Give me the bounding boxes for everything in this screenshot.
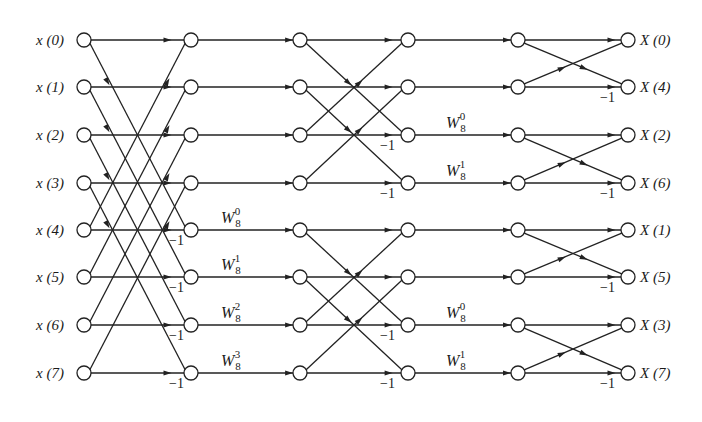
arrowhead-icon [557, 254, 566, 262]
node-c4-r2 [511, 128, 525, 142]
output-label-2: X (2) [639, 127, 670, 144]
arrowhead-icon [503, 84, 511, 89]
arrowhead-icon [385, 84, 393, 89]
node-c3-r7 [401, 366, 415, 380]
fft-flow-graph: x (0)x (1)x (2)x (3)x (4)x (5)x (6)x (7)… [0, 0, 702, 422]
node-c2-r2 [293, 128, 307, 142]
node-c4-r0 [511, 33, 525, 47]
node-c0-r4 [77, 223, 91, 237]
arrowhead-icon [285, 180, 293, 185]
input-label-4: x (4) [35, 222, 64, 239]
arrowhead-icon [285, 132, 293, 137]
arrowhead-icon [503, 132, 511, 137]
arrowhead-icon [608, 227, 616, 232]
arrowhead-icon [608, 370, 616, 375]
arrowhead-icon [557, 350, 566, 358]
neg-label-stage2-row3: −1 [380, 186, 395, 201]
neg-label-stage3-row3: −1 [600, 186, 615, 201]
node-c4-r1 [511, 80, 525, 94]
twiddle-stage2-row6: W80 [446, 300, 466, 324]
neg-label-stage1-row6: −1 [169, 328, 184, 343]
twiddle-stage1-row7: W83 [221, 348, 241, 372]
arrowhead-icon [557, 64, 566, 72]
node-c4-r4 [511, 223, 525, 237]
node-c1-r3 [184, 176, 198, 190]
output-label-5: X (5) [639, 269, 670, 286]
input-label-0: x (0) [35, 32, 64, 49]
arrowhead-icon [608, 180, 616, 185]
node-c1-r1 [184, 80, 198, 94]
arrowhead-icon [285, 84, 293, 89]
arrowhead-icon [503, 322, 511, 327]
arrowhead-icon [503, 227, 511, 232]
arrowhead-icon [608, 37, 616, 42]
arrowhead-icon [503, 37, 511, 42]
node-c5-r2 [621, 128, 635, 142]
arrowhead-icon [579, 350, 588, 358]
edges-layer [90, 40, 623, 373]
node-c5-r6 [621, 318, 635, 332]
arrowhead-icon [385, 37, 393, 42]
node-c3-r4 [401, 223, 415, 237]
neg-label-stage3-row5: −1 [600, 280, 615, 295]
node-c3-r3 [401, 176, 415, 190]
node-c4-r3 [511, 176, 525, 190]
node-c0-r2 [77, 128, 91, 142]
node-c2-r4 [293, 223, 307, 237]
node-c4-r5 [511, 270, 525, 284]
arrowhead-icon [579, 64, 588, 72]
arrowhead-icon [285, 37, 293, 42]
arrowhead-icon [608, 132, 616, 137]
arrowhead-icon [557, 160, 566, 168]
node-c0-r0 [77, 33, 91, 47]
node-c1-r6 [184, 318, 198, 332]
node-c1-r2 [184, 128, 198, 142]
twiddle-stage2-row3: W81 [446, 158, 466, 182]
node-c3-r2 [401, 128, 415, 142]
node-c3-r6 [401, 318, 415, 332]
arrowhead-icon [385, 132, 393, 137]
arrowhead-icon [285, 274, 293, 279]
node-c1-r0 [184, 33, 198, 47]
input-label-6: x (6) [35, 317, 64, 334]
node-c5-r3 [621, 176, 635, 190]
arrowhead-icon [164, 274, 172, 279]
node-c0-r5 [77, 270, 91, 284]
output-label-1: X (4) [639, 79, 670, 96]
input-label-3: x (3) [35, 175, 64, 192]
node-c2-r6 [293, 318, 307, 332]
arrowhead-icon [385, 370, 393, 375]
arrowhead-icon [385, 274, 393, 279]
twiddle-stage1-row5: W81 [221, 252, 241, 276]
arrowhead-icon [285, 370, 293, 375]
twiddle-stage1-row6: W82 [221, 300, 241, 324]
arrowhead-icon [579, 160, 588, 168]
node-c1-r4 [184, 223, 198, 237]
node-c0-r7 [77, 366, 91, 380]
twiddle-stage2-row2: W80 [446, 110, 466, 134]
neg-label-stage3-row1: −1 [600, 90, 615, 105]
arrowhead-icon [503, 274, 511, 279]
node-c5-r1 [621, 80, 635, 94]
arrowhead-icon [608, 322, 616, 327]
arrowhead-icon [164, 322, 172, 327]
node-c5-r5 [621, 270, 635, 284]
node-c5-r4 [621, 223, 635, 237]
input-label-5: x (5) [35, 269, 64, 286]
input-label-2: x (2) [35, 127, 64, 144]
neg-label-stage1-row7: −1 [169, 376, 184, 391]
node-c2-r5 [293, 270, 307, 284]
node-c2-r3 [293, 176, 307, 190]
neg-label-stage1-row5: −1 [169, 280, 184, 295]
node-c0-r1 [77, 80, 91, 94]
butterfly-diagram: x (0)x (1)x (2)x (3)x (4)x (5)x (6)x (7)… [0, 0, 702, 422]
input-label-1: x (1) [35, 79, 64, 96]
node-c0-r6 [77, 318, 91, 332]
output-label-3: X (6) [639, 175, 670, 192]
node-c5-r7 [621, 366, 635, 380]
arrowhead-icon [285, 322, 293, 327]
node-c2-r0 [293, 33, 307, 47]
arrowhead-icon [385, 322, 393, 327]
arrowhead-icon [285, 227, 293, 232]
node-c4-r6 [511, 318, 525, 332]
